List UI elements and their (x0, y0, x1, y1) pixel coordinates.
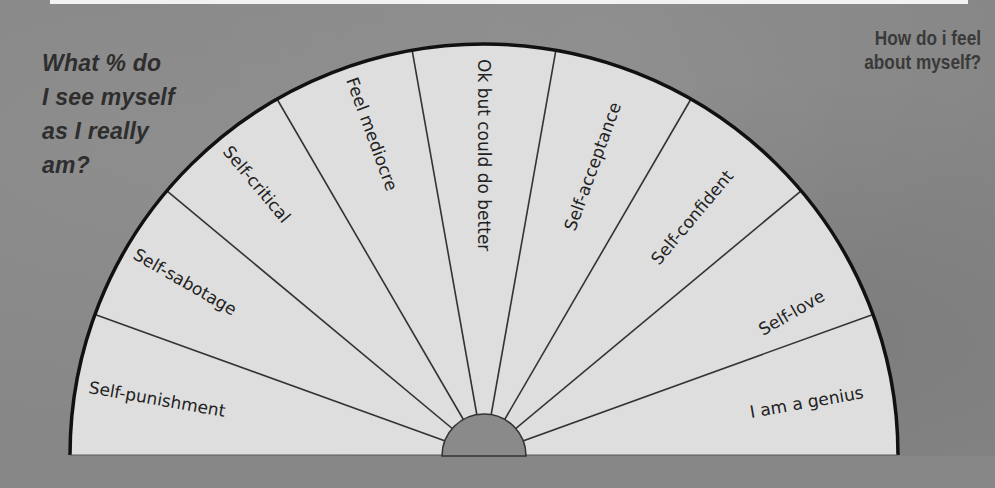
bottom-band (0, 456, 995, 488)
segment-label-ok-but-could-do-better: Ok but could do better (474, 59, 494, 251)
self-perception-wheel: Self-punishment Self-sabotage Self-criti… (0, 0, 995, 488)
